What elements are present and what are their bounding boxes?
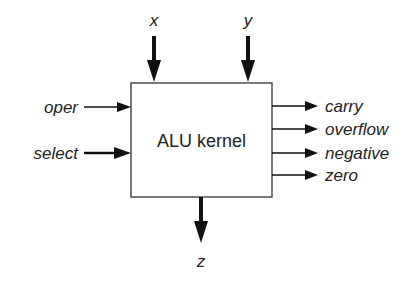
input-y-label: y bbox=[243, 11, 254, 30]
output-negative-label: negative bbox=[325, 144, 389, 163]
input-x-arrow-icon bbox=[147, 36, 161, 82]
output-z-label: z bbox=[196, 252, 206, 271]
input-select-arrow-icon bbox=[84, 147, 131, 159]
output-carry-label: carry bbox=[325, 97, 364, 116]
output-zero-arrow-icon bbox=[272, 170, 318, 180]
output-overflow-arrow-icon bbox=[272, 124, 318, 134]
block-label: ALU kernel bbox=[157, 131, 246, 151]
input-oper-label: oper bbox=[44, 98, 79, 117]
input-y-arrow-icon bbox=[241, 36, 255, 82]
output-carry-arrow-icon bbox=[272, 101, 318, 111]
alu-diagram: ALU kernel x y oper select carry overflo… bbox=[0, 0, 418, 289]
input-oper-arrow-icon bbox=[84, 102, 131, 112]
output-zero-label: zero bbox=[324, 166, 358, 185]
output-z-arrow-icon bbox=[194, 197, 208, 243]
input-select-label: select bbox=[34, 144, 80, 163]
input-x-label: x bbox=[149, 11, 159, 30]
output-negative-arrow-icon bbox=[272, 148, 318, 158]
output-overflow-label: overflow bbox=[325, 120, 390, 139]
